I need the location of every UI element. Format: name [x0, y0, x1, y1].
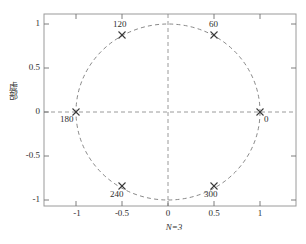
x-tick-label-4: 1: [253, 208, 267, 218]
point-label-300: 300: [204, 189, 218, 199]
y-tick-label-1: 0.5: [16, 62, 40, 72]
y-tick-label-4: -1: [18, 194, 40, 204]
x-tick-label-0: -1: [68, 208, 86, 218]
point-label-60: 60: [209, 19, 218, 29]
point-label-240: 240: [110, 189, 124, 199]
y-tick-label-0: 1: [22, 18, 40, 28]
point-label-0: 0: [264, 114, 269, 124]
point-label-180: 180: [60, 114, 74, 124]
x-axis-label: N=3: [144, 222, 204, 232]
x-tick-label-1: -0.5: [110, 208, 134, 218]
x-tick-label-3: 0.5: [203, 208, 225, 218]
y-tick-label-2: 0: [22, 106, 40, 116]
x-tick-label-2: 0: [160, 208, 176, 218]
y-axis-label: 虚部: [2, 82, 18, 100]
y-tick-label-3: -0.5: [12, 150, 40, 160]
point-label-120: 120: [113, 19, 127, 29]
